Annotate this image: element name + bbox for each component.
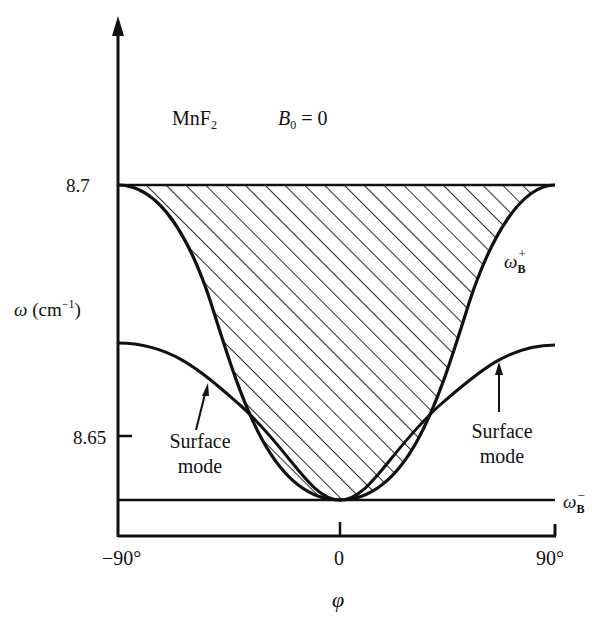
dispersion-plot	[0, 0, 602, 620]
y-axis-unit-close: )	[75, 299, 81, 320]
omega-superscript: −	[577, 489, 584, 502]
arrow-up-icon	[495, 362, 503, 375]
y-axis-unit-exponent: −1	[62, 297, 75, 311]
omega-subscript: B	[517, 263, 525, 275]
x-tick-label-0: 0	[334, 548, 344, 568]
y-axis	[112, 16, 132, 537]
omega-symbol: ω	[14, 299, 27, 320]
field-symbol: B	[278, 107, 290, 129]
omega-b-plus-label: ω B +	[504, 252, 527, 271]
y-tick-label-8.7: 8.7	[66, 176, 90, 195]
y-tick-label-8.65: 8.65	[73, 428, 106, 447]
surface-mode-right-label: Surface mode	[462, 419, 542, 469]
y-axis-label: ω (cm−1)	[14, 298, 81, 319]
x-tick-label-90: 90°	[536, 548, 564, 568]
field-subscript: 0	[290, 118, 296, 132]
omega-subscript: B	[576, 503, 584, 515]
field-value: = 0	[301, 107, 327, 129]
surface-mode-right-pointer	[495, 362, 503, 412]
material-label: MnF2	[172, 108, 217, 131]
x-axis-label: φ	[332, 589, 344, 611]
surface-mode-left-line2: mode	[160, 454, 240, 479]
omega-b-minus-label: ω B −	[563, 492, 586, 511]
surface-mode-left-pointer	[196, 383, 209, 430]
y-axis-arrow-icon	[112, 16, 124, 36]
omega-superscript: +	[518, 247, 525, 260]
surface-mode-left-line1: Surface	[160, 429, 240, 454]
material-subscript: 2	[211, 118, 217, 132]
omega-symbol: ω	[563, 491, 576, 512]
surface-mode-right-line1: Surface	[462, 419, 542, 444]
material-text: MnF	[172, 107, 211, 129]
surface-mode-left-label: Surface mode	[160, 429, 240, 479]
y-axis-unit-open: (cm	[32, 299, 62, 320]
arrow-up-icon	[202, 383, 209, 396]
omega-symbol: ω	[504, 251, 517, 272]
x-axis	[118, 522, 556, 536]
surface-mode-right-line2: mode	[462, 444, 542, 469]
field-label: B0 = 0	[278, 108, 328, 131]
x-tick-label-neg90: −90°	[102, 548, 141, 568]
